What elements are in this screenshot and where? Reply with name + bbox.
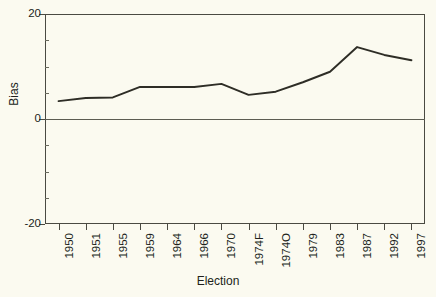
x-axis-tick bbox=[330, 224, 331, 230]
x-axis-tick-label: 1983 bbox=[335, 233, 347, 259]
x-axis-title: Election bbox=[0, 275, 436, 287]
y-axis-tick-minor bbox=[45, 198, 49, 199]
x-axis-tick-label: 1964 bbox=[172, 233, 184, 259]
y-axis-tick-minor bbox=[45, 67, 49, 68]
x-axis-tick-label: 1997 bbox=[416, 233, 428, 259]
x-axis-tick-label: 1970 bbox=[226, 233, 238, 259]
x-axis-tick bbox=[303, 224, 304, 230]
x-axis-tick-label: 1959 bbox=[145, 233, 157, 259]
x-axis-tick bbox=[384, 224, 385, 230]
x-axis-tick bbox=[167, 224, 168, 230]
x-axis-tick bbox=[59, 224, 60, 230]
x-axis-tick-label: 1950 bbox=[64, 233, 76, 259]
x-axis-tick bbox=[276, 224, 277, 230]
y-axis-tick-label: 20 bbox=[0, 8, 44, 20]
x-axis-tick bbox=[113, 224, 114, 230]
x-axis-tick-label: 1987 bbox=[362, 233, 374, 259]
x-axis-tick bbox=[411, 224, 412, 230]
x-axis-tick bbox=[249, 224, 250, 230]
x-axis-tick-label: 1966 bbox=[199, 233, 211, 259]
x-axis-tick-label: 1951 bbox=[91, 233, 103, 259]
x-axis-tick-label: 1974O bbox=[281, 233, 293, 268]
y-axis-tick-minor bbox=[45, 40, 49, 41]
chart-figure: Bias Election 200-2019501951195519591964… bbox=[0, 0, 436, 297]
zero-reference-line bbox=[45, 119, 425, 120]
y-axis-tick-minor bbox=[45, 93, 49, 94]
x-axis-tick-label: 1974F bbox=[254, 233, 266, 266]
y-axis-tick-label: 0 bbox=[0, 113, 44, 125]
x-axis-tick bbox=[140, 224, 141, 230]
x-axis-tick bbox=[194, 224, 195, 230]
x-axis-tick-label: 1992 bbox=[389, 233, 401, 259]
x-axis-tick bbox=[86, 224, 87, 230]
x-axis-tick-label: 1955 bbox=[118, 233, 130, 259]
x-axis-tick-label: 1979 bbox=[308, 233, 320, 259]
x-axis-tick bbox=[221, 224, 222, 230]
y-axis-tick-minor bbox=[45, 145, 49, 146]
y-axis-tick-label: -20 bbox=[0, 218, 44, 230]
x-axis-tick bbox=[357, 224, 358, 230]
y-axis-tick-minor bbox=[45, 172, 49, 173]
